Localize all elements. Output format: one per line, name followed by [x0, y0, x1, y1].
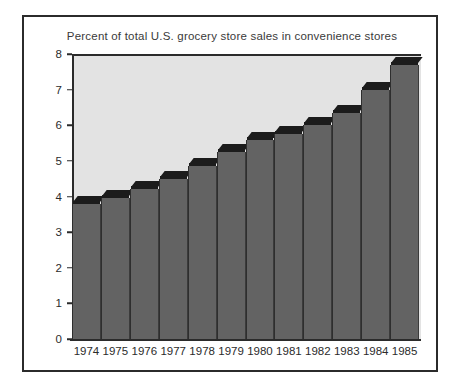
- bar-slot: [72, 54, 101, 339]
- y-axis: 012345678: [24, 17, 72, 377]
- x-tick-label: 1975: [101, 345, 130, 357]
- bar: [390, 65, 419, 339]
- y-tick-label: 8: [56, 48, 62, 60]
- bar-top-face: [73, 201, 100, 204]
- bar-slot: [390, 54, 419, 339]
- bar-slot: [188, 54, 217, 339]
- x-tick-label: 1981: [274, 345, 303, 357]
- x-tick-label: 1982: [303, 345, 332, 357]
- bar-top-face: [275, 131, 302, 134]
- bar-top-face: [391, 62, 418, 65]
- chart-frame: Percent of total U.S. grocery store sale…: [22, 15, 438, 372]
- bar: [188, 166, 217, 339]
- bar-slot: [101, 54, 130, 339]
- bar-top-face: [247, 137, 274, 140]
- bar-top-face: [102, 195, 129, 198]
- bar: [72, 204, 101, 339]
- bar-slot: [361, 54, 390, 339]
- bar-slot: [303, 54, 332, 339]
- x-axis-baseline: [70, 339, 421, 341]
- bar-top-face: [218, 149, 245, 152]
- y-tick-label: 1: [56, 297, 62, 309]
- bar: [217, 152, 246, 339]
- bar-slot: [159, 54, 188, 339]
- bar-top-face: [160, 176, 187, 179]
- bar-top-face: [333, 110, 360, 113]
- bar-slot: [217, 54, 246, 339]
- x-tick-label: 1977: [159, 345, 188, 357]
- y-tick-label: 4: [56, 191, 62, 203]
- x-axis: 1974197519761977197819791980198119821983…: [72, 345, 419, 357]
- x-tick-label: 1979: [217, 345, 246, 357]
- bar-top-face: [189, 163, 216, 166]
- y-tick-label: 6: [56, 119, 62, 131]
- chart-screenshot: Percent of total U.S. grocery store sale…: [0, 0, 456, 389]
- chart-title: Percent of total U.S. grocery store sale…: [24, 30, 440, 42]
- x-tick-label: 1978: [188, 345, 217, 357]
- y-tick-label: 7: [56, 84, 62, 96]
- bar-slot: [274, 54, 303, 339]
- x-tick-label: 1974: [72, 345, 101, 357]
- y-tick-label: 5: [56, 155, 62, 167]
- bar: [246, 140, 275, 340]
- bar-slot: [130, 54, 159, 339]
- bar: [159, 179, 188, 339]
- y-tick-label: 2: [56, 262, 62, 274]
- bar-top-face: [131, 186, 158, 189]
- bar-slot: [246, 54, 275, 339]
- bar: [332, 113, 361, 339]
- x-tick-label: 1984: [361, 345, 390, 357]
- bar: [130, 189, 159, 339]
- bar-slot: [332, 54, 361, 339]
- bar-top-face: [304, 122, 331, 125]
- x-tick-label: 1983: [332, 345, 361, 357]
- x-tick-label: 1980: [246, 345, 275, 357]
- x-tick-label: 1976: [130, 345, 159, 357]
- bar: [101, 198, 130, 339]
- bar: [274, 134, 303, 339]
- bar-series: [72, 54, 419, 339]
- y-tick-label: 0: [56, 333, 62, 345]
- y-tick-label: 3: [56, 226, 62, 238]
- x-tick-label: 1985: [390, 345, 419, 357]
- bar: [303, 125, 332, 339]
- bar-top-face: [362, 87, 389, 90]
- bar: [361, 90, 390, 339]
